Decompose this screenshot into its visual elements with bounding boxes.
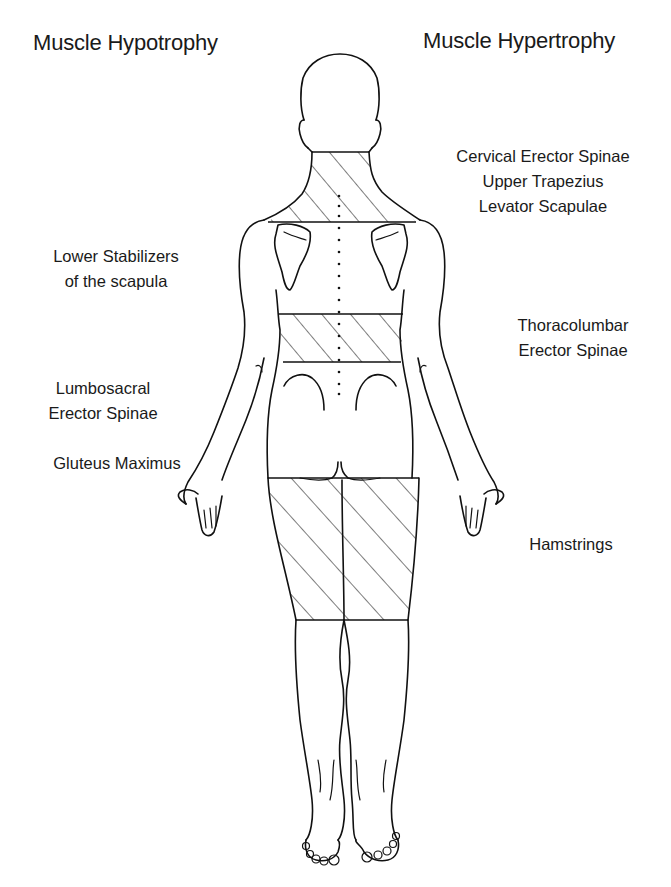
spine-dotted-line: [338, 195, 341, 396]
hatched-region-thoracolumbar: [279, 314, 403, 362]
posterior-body-figure: [0, 0, 671, 887]
right-hand: [460, 490, 504, 536]
left-foot: [303, 840, 340, 865]
lumbar-curves: [284, 375, 396, 410]
hatched-region-hamstrings: [268, 478, 419, 620]
right-foot: [356, 833, 400, 863]
hatched-region-neck-upper-trapezius: [268, 152, 416, 222]
left-hand: [178, 490, 222, 536]
head-outline: [299, 54, 381, 152]
lower-legs-outline: [295, 620, 409, 840]
scapula-right: [372, 224, 408, 290]
scapula-left: [275, 224, 311, 290]
